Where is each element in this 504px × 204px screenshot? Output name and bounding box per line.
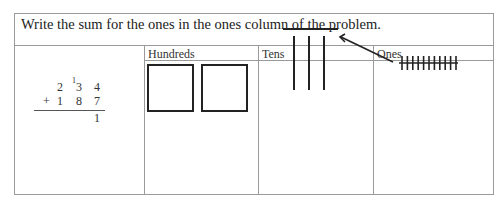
worksheet-table: Write the sum for the ones in the ones c… bbox=[14, 13, 494, 195]
regroup-arrow bbox=[341, 37, 393, 62]
model-drawing bbox=[15, 14, 495, 196]
